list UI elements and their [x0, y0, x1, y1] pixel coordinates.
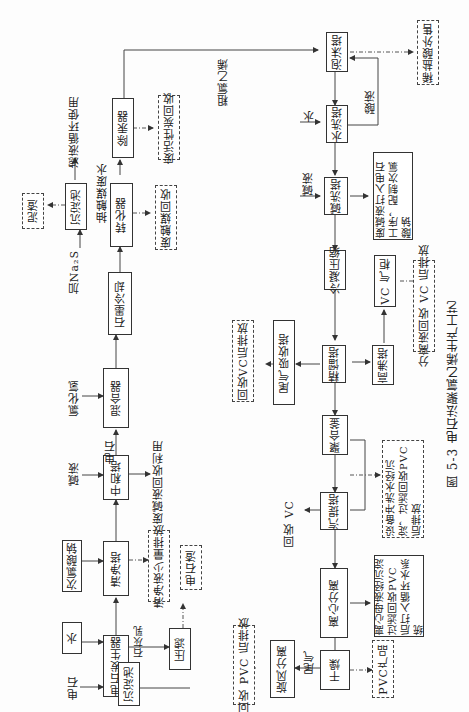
- node-weiqi-xishouta: 尾气吸收塔: [273, 320, 295, 405]
- node-gaofeita: 高沸塔: [372, 345, 394, 385]
- label-weiqi: 尾气: [303, 650, 316, 674]
- node-feihuoxingtan: 废活性炭回收: [158, 95, 180, 160]
- node-cilvsuanna: 次氯酸钠: [62, 540, 82, 592]
- node-shebei-chongxi: 设备冲洗水经沉淀，过滤回收PVC后排放: [382, 440, 424, 538]
- label-jia-na2s: 加Na₂S: [68, 250, 81, 294]
- node-yalv: 压滤: [169, 628, 191, 670]
- node-paomota: 泡沫塔: [326, 32, 348, 72]
- flowchart-canvas: 水 电石发生器 沉淀池 压滤 次氯酸钠 清净塔 中和塔 混合器 石墨冷却 转化器…: [0, 0, 469, 712]
- node-pvc-chanpin: PVC产品: [372, 640, 394, 698]
- node-chugongqi: 除汞器: [112, 98, 134, 158]
- label-shui2: 水: [303, 110, 316, 122]
- node-juhefu: 聚合釜: [322, 415, 348, 455]
- node-lixin-muye: 离心母液经沉淀过滤回收PVC后打入循环水系统: [374, 555, 424, 637]
- label-dianshi2: 电石: [104, 440, 117, 464]
- node-jianxita: 碱洗塔: [324, 177, 348, 215]
- label-suanye: 酸液: [364, 90, 377, 114]
- label-dianshi-in: 电石: [67, 676, 80, 700]
- label-cidianjiang: 石灰乳: [132, 625, 145, 658]
- node-xuanfeng-fenli: 旋风分离: [270, 640, 295, 698]
- node-chendianchi1: 沉淀池: [118, 662, 140, 706]
- node-feichumo: 废触媒回收: [155, 185, 177, 250]
- node-nizha: 泥渣: [22, 193, 44, 229]
- node-dianshizha: 电石渣: [180, 545, 202, 590]
- label-chumo-feishui: 抽触媒废水: [96, 163, 109, 223]
- node-shui: 水: [62, 622, 82, 654]
- label-jianye1: 碱液: [68, 462, 81, 486]
- label-culvyixi: 粗氯乙烯: [217, 58, 230, 106]
- node-shuixita: 水洗塔: [326, 105, 348, 143]
- label-jianye2: 碱液: [302, 172, 315, 196]
- node-huishou-pvc: 回收 PVC 后排放: [233, 625, 255, 705]
- node-qitita: 汽提塔: [320, 492, 348, 530]
- node-qingjingta: 清净塔: [103, 541, 129, 596]
- node-chendianchi2: 沉淀池: [65, 183, 87, 230]
- node-lixin-fenli: 离心分离: [320, 568, 348, 638]
- node-qingjingye: 清净液少量排放: [148, 530, 170, 602]
- label-feijianye: 废碱液回收利用: [152, 440, 165, 524]
- node-xiyansuan: 稀盐酸外售: [417, 20, 439, 85]
- node-feijianye-note: 废碱液打入电石工序，配制次氯酸钠: [373, 152, 413, 240]
- label-huishou-vc: 回收 VC: [283, 500, 296, 547]
- figure-caption: 图 5-3 电石法聚氯乙烯生产工艺: [447, 300, 460, 488]
- node-shimolengque: 石墨冷却: [108, 272, 132, 335]
- node-fenliye: 分离液回收 VC 后排放: [413, 260, 435, 352]
- label-lvhuaqing: 氯化氢: [68, 380, 81, 416]
- node-zhuanhuaqi: 转化器: [110, 183, 133, 247]
- node-hunheqi: 混合器: [103, 368, 129, 428]
- node-huishou-vc-paifang: 回收VC后排放: [232, 320, 254, 402]
- node-jingliuta: 精馏塔: [322, 345, 346, 383]
- node-ganzao: 干燥: [320, 650, 350, 690]
- label-lvye-xunhuan: 滤液循环使用: [68, 96, 81, 168]
- node-lengningyasuo: 冷凝压缩: [324, 250, 346, 290]
- node-vc-qigui: VC 气柜: [374, 255, 396, 307]
